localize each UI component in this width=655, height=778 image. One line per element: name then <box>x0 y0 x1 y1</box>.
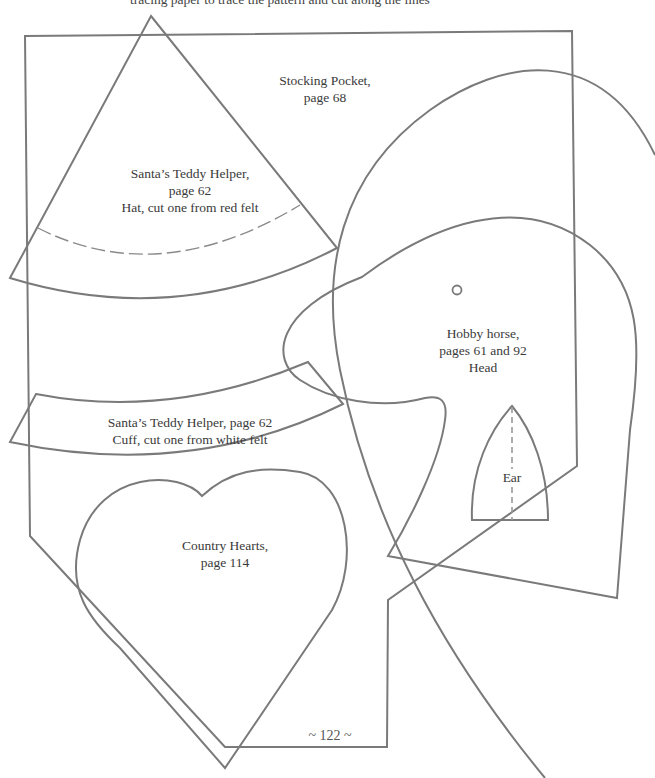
pattern-outlines <box>0 0 655 778</box>
hobby-horse-ear-label: Ear <box>492 469 532 486</box>
hobby-horse-head-label: Hobby horse, pages 61 and 92 Head <box>413 325 553 376</box>
hobby-horse-ear-outline <box>472 406 548 520</box>
santa-hat-label: Santa’s Teddy Helper, page 62 Hat, cut o… <box>90 165 290 216</box>
country-hearts-label: Country Hearts, page 114 <box>160 537 290 571</box>
stocking-pocket-label: Stocking Pocket, page 68 <box>255 72 395 106</box>
stocking-pocket-outline <box>25 31 577 747</box>
hobby-horse-eye-marker <box>453 286 462 295</box>
page-number: ~ 122 ~ <box>290 728 370 744</box>
hobby-horse-neck-outline <box>333 70 655 778</box>
santa-cuff-label: Santa’s Teddy Helper, page 62 Cuff, cut … <box>85 414 295 448</box>
santa-hat-outline <box>10 16 337 298</box>
pattern-page: tracing paper to trace the pattern and c… <box>0 0 655 778</box>
country-heart-outline <box>76 470 347 768</box>
